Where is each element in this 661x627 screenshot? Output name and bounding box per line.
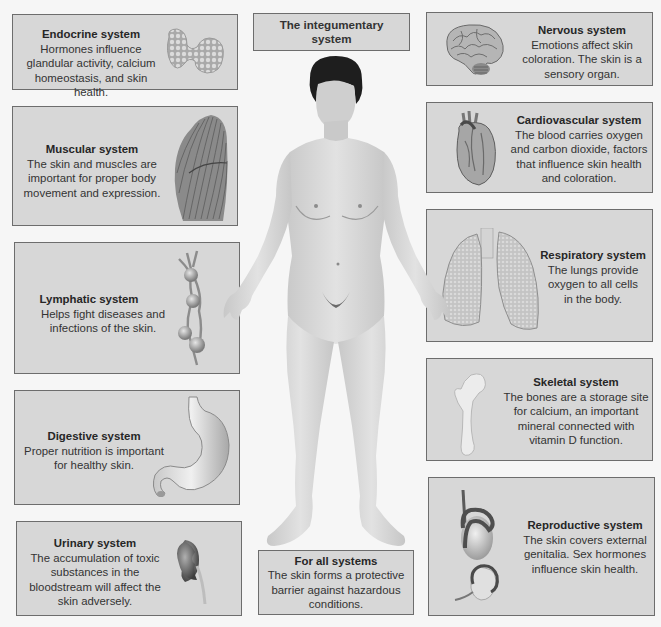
cardiovascular-box: Cardiovascular system The blood carries … bbox=[426, 102, 653, 193]
lymphatic-description: Helps fight diseases and infections of t… bbox=[19, 307, 187, 336]
urinary-description: The accumulation of toxic substances in … bbox=[21, 551, 169, 609]
title-line-1: The integumentary bbox=[280, 18, 384, 32]
urinary-box: Urinary system The accumulation of toxic… bbox=[16, 521, 242, 616]
endocrine-title: Endocrine system bbox=[17, 27, 165, 42]
digestive-description: Proper nutrition is important for health… bbox=[19, 444, 169, 473]
heart-icon bbox=[453, 111, 499, 187]
page-title: The integumentary system bbox=[280, 18, 384, 46]
cardiovascular-text: Cardiovascular system The blood carries … bbox=[507, 113, 651, 186]
reproductive-organs-icon bbox=[451, 488, 511, 612]
nervous-box: Nervous system Emotions affect skin colo… bbox=[426, 12, 653, 86]
muscular-title: Muscular system bbox=[17, 142, 167, 157]
endocrine-text: Endocrine system Hormones influence glan… bbox=[17, 27, 165, 100]
lymphatic-box: Lymphatic system Helps fight diseases an… bbox=[14, 242, 240, 374]
all-systems-description: The skin forms a protective barrier agai… bbox=[268, 568, 405, 612]
digestive-title: Digestive system bbox=[19, 429, 169, 444]
respiratory-title: Respiratory system bbox=[537, 248, 649, 263]
reproductive-description: The skin covers external genitalia. Sex … bbox=[515, 533, 655, 577]
muscular-box: Muscular system The skin and muscles are… bbox=[12, 106, 238, 226]
digestive-text: Digestive system Proper nutrition is imp… bbox=[19, 429, 169, 473]
all-systems-title: For all systems bbox=[268, 554, 405, 569]
digestive-box: Digestive system Proper nutrition is imp… bbox=[14, 390, 240, 505]
title-box: The integumentary system bbox=[253, 13, 410, 51]
nervous-description: Emotions affect skin coloration. The ski… bbox=[513, 38, 651, 82]
human-body-figure bbox=[218, 56, 454, 554]
all-systems-box: For all systems The skin forms a protect… bbox=[258, 550, 414, 615]
all-systems-text: For all systems The skin forms a protect… bbox=[268, 554, 405, 612]
lymph-nodes-icon bbox=[175, 249, 215, 369]
reproductive-title: Reproductive system bbox=[515, 518, 655, 533]
urinary-text: Urinary system The accumulation of toxic… bbox=[21, 536, 169, 609]
lymphatic-text: Lymphatic system Helps fight diseases an… bbox=[19, 292, 187, 336]
nervous-title: Nervous system bbox=[513, 23, 651, 38]
respiratory-text: Respiratory system The lungs provide oxy… bbox=[537, 248, 649, 306]
skeletal-text: Skeletal system The bones are a storage … bbox=[501, 375, 651, 448]
reproductive-text: Reproductive system The skin covers exte… bbox=[515, 518, 655, 576]
cardiovascular-description: The blood carries oxygen and carbon diox… bbox=[507, 128, 651, 186]
respiratory-box: Respiratory system The lungs provide oxy… bbox=[426, 209, 653, 342]
endocrine-description: Hormones influence glandular activity, c… bbox=[17, 42, 165, 100]
kidney-icon bbox=[177, 536, 217, 606]
endocrine-box: Endocrine system Hormones influence glan… bbox=[12, 14, 238, 90]
reproductive-box: Reproductive system The skin covers exte… bbox=[428, 477, 655, 616]
femur-bone-icon bbox=[449, 371, 493, 457]
skeletal-box: Skeletal system The bones are a storage … bbox=[426, 358, 653, 461]
skeletal-title: Skeletal system bbox=[501, 375, 651, 390]
lymphatic-title: Lymphatic system bbox=[19, 292, 187, 307]
urinary-title: Urinary system bbox=[21, 536, 169, 551]
skeletal-description: The bones are a storage site for calcium… bbox=[501, 390, 651, 448]
cardiovascular-title: Cardiovascular system bbox=[507, 113, 651, 128]
muscular-description: The skin and muscles are important for p… bbox=[17, 157, 167, 201]
respiratory-description: The lungs provide oxygen to all cells in… bbox=[537, 263, 649, 307]
muscular-text: Muscular system The skin and muscles are… bbox=[17, 142, 167, 200]
nervous-text: Nervous system Emotions affect skin colo… bbox=[513, 23, 651, 81]
title-line-2: system bbox=[280, 32, 384, 46]
